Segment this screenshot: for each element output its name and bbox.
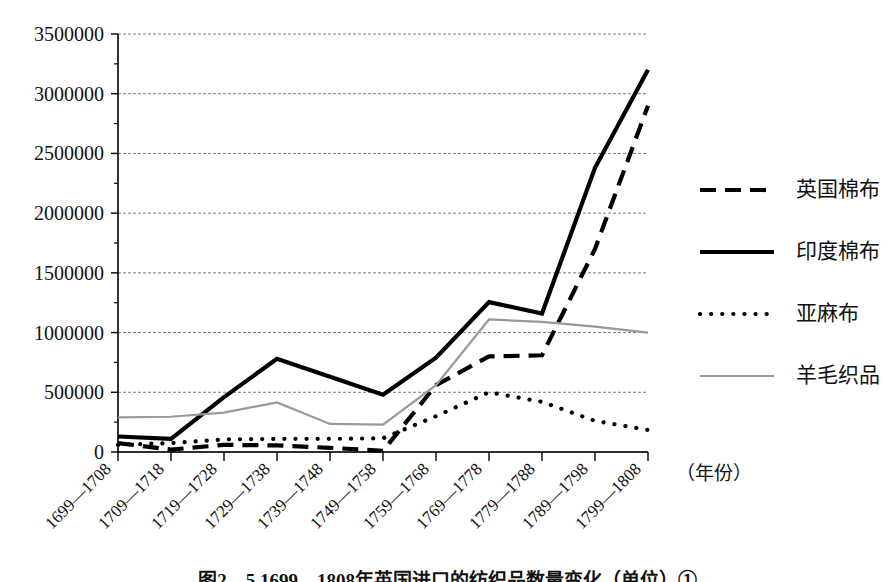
y-tick-label: 2000000 bbox=[34, 202, 104, 224]
x-tick-labels: 1699—17081709—17181719—17281729—17381739… bbox=[41, 459, 645, 533]
legend-item-0: 英国棉布 bbox=[700, 177, 880, 201]
legend-item-1: 印度棉布 bbox=[700, 239, 880, 263]
y-tick-label: 3500000 bbox=[34, 23, 104, 45]
line-chart: 3500000300000025000002000000150000010000… bbox=[0, 0, 895, 582]
y-tick-labels: 3500000300000025000002000000150000010000… bbox=[34, 23, 104, 463]
chart-legend: 英国棉布印度棉布亚麻布羊毛织品 bbox=[700, 177, 880, 387]
series-line-3 bbox=[118, 319, 648, 424]
x-axis-caption: （年份） bbox=[676, 463, 752, 484]
series-line-0 bbox=[118, 106, 648, 451]
legend-item-3: 羊毛织品 bbox=[700, 363, 880, 387]
series-lines-group bbox=[118, 70, 648, 451]
y-tick-label: 1500000 bbox=[34, 262, 104, 284]
y-tick-label: 1000000 bbox=[34, 322, 104, 344]
figure-caption: 图2—5 1699—1808年英国进口的纺织品数量变化（单位）① bbox=[0, 566, 895, 582]
y-tick-label: 3000000 bbox=[34, 83, 104, 105]
figure-container: 3500000300000025000002000000150000010000… bbox=[0, 0, 895, 582]
y-tick-label: 500000 bbox=[44, 381, 104, 403]
x-tick-marks bbox=[118, 452, 648, 461]
legend-label: 亚麻布 bbox=[796, 301, 859, 325]
legend-label: 羊毛织品 bbox=[796, 363, 880, 387]
legend-label: 英国棉布 bbox=[796, 177, 880, 201]
legend-item-2: 亚麻布 bbox=[700, 301, 859, 325]
y-axis bbox=[111, 34, 118, 453]
series-line-1 bbox=[118, 70, 648, 439]
y-tick-label: 2500000 bbox=[34, 142, 104, 164]
y-tick-label: 0 bbox=[94, 441, 104, 463]
legend-label: 印度棉布 bbox=[796, 239, 880, 263]
